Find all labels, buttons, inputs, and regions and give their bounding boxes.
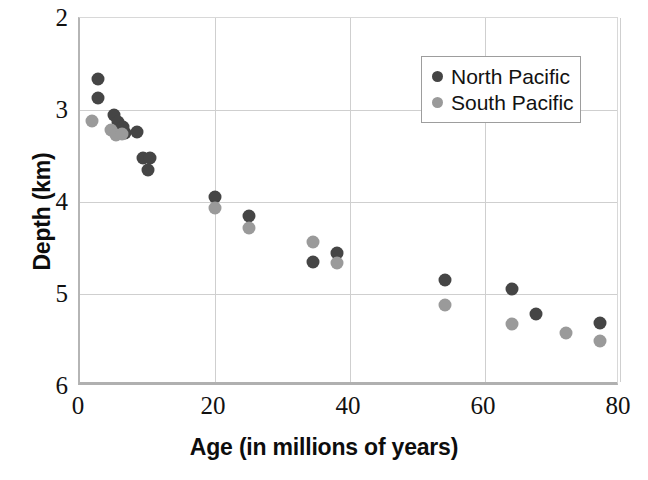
y-axis-tick-label: 6 <box>26 373 68 398</box>
data-point <box>115 127 128 140</box>
data-point <box>506 283 519 296</box>
x-axis-tick-label: 80 <box>606 393 631 418</box>
south-pacific-dot-icon <box>432 97 443 108</box>
data-point <box>130 126 143 139</box>
data-point <box>438 299 451 312</box>
data-point <box>306 236 319 249</box>
data-point <box>209 201 222 214</box>
gridline-horizontal <box>80 202 617 203</box>
y-axis-tick-label: 3 <box>26 97 68 122</box>
gridline-vertical <box>620 18 621 382</box>
gridline-vertical <box>350 18 351 382</box>
data-point <box>593 317 606 330</box>
x-axis-tick-label: 0 <box>72 393 85 418</box>
y-axis-tick-label: 2 <box>26 5 68 30</box>
x-axis-title: Age (in millions of years) <box>0 434 648 461</box>
y-axis-tick-label: 5 <box>26 281 68 306</box>
data-point <box>529 308 542 321</box>
legend-label: South Pacific <box>451 92 574 113</box>
legend-item-south-pacific: South Pacific <box>432 89 570 115</box>
legend-label: North Pacific <box>451 66 570 87</box>
north-pacific-dot-icon <box>432 71 443 82</box>
data-point <box>141 163 154 176</box>
data-point <box>438 274 451 287</box>
data-point <box>91 92 104 105</box>
x-axis-tick-label: 60 <box>471 393 496 418</box>
scatter-chart-figure: Depth (km) Age (in millions of years) No… <box>0 0 648 480</box>
data-point <box>242 221 255 234</box>
data-point <box>330 256 343 269</box>
data-point <box>560 326 573 339</box>
data-point <box>306 255 319 268</box>
x-axis-tick-label: 40 <box>336 393 361 418</box>
chart-legend: North Pacific South Pacific <box>421 56 581 123</box>
data-point <box>506 318 519 331</box>
legend-item-north-pacific: North Pacific <box>432 63 570 89</box>
data-point <box>91 72 104 85</box>
x-axis-tick-label: 20 <box>201 393 226 418</box>
y-axis-tick-label: 4 <box>26 189 68 214</box>
gridline-horizontal <box>80 294 617 295</box>
data-point <box>86 115 99 128</box>
data-point <box>593 334 606 347</box>
